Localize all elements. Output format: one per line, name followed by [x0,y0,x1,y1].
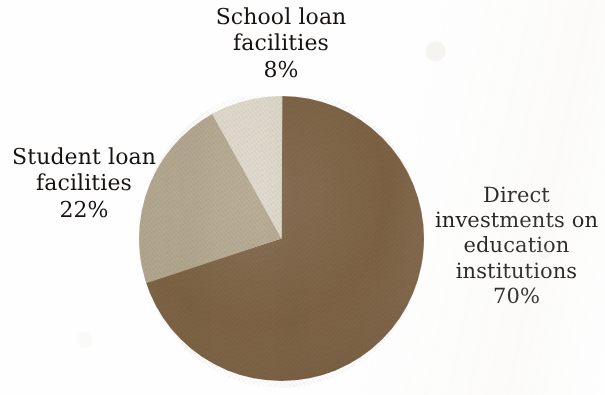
slice-label-direct-line-4: institutions [428,259,605,284]
slice-label-student-line-2: facilities [0,171,168,197]
slice-label-student-loan-facilities: Student loan facilities 22% [0,145,168,224]
slice-label-direct-investments: Direct investments on education institut… [428,183,605,309]
slice-label-school-line-2: facilities [152,31,410,57]
pie-shading-overlay [139,96,424,381]
slice-label-student-line-1: Student loan [0,145,168,171]
pie-chart-figure: School loan facilities 8% Student loan f… [0,0,605,395]
pie-svg [139,96,424,395]
slice-label-direct-percentage: 70% [428,284,605,309]
slice-label-student-percentage: 22% [0,198,168,224]
slice-label-school-percentage: 8% [152,58,410,84]
slice-label-direct-line-3: education [428,233,605,258]
slice-label-school-line-1: School loan [152,5,410,31]
slice-label-direct-line-1: Direct [428,183,605,208]
slice-label-school-loan-facilities: School loan facilities 8% [152,5,410,84]
pie-chart-graphic [139,96,424,395]
slice-label-direct-line-2: investments on [428,208,605,233]
